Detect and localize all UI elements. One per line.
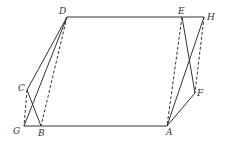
segment-ef <box>182 17 195 93</box>
segment-dg <box>24 17 67 126</box>
label-h: H <box>206 12 215 22</box>
segment-ea-dashed <box>167 17 182 126</box>
segment-dc <box>27 17 67 90</box>
segment-db-dashed <box>41 17 67 126</box>
segment-ha <box>167 17 204 126</box>
label-d: D <box>58 6 66 16</box>
label-g: G <box>13 126 20 136</box>
label-c: C <box>18 83 25 93</box>
label-a: A <box>165 127 173 137</box>
label-f: F <box>196 88 204 98</box>
segment-cb <box>27 90 41 126</box>
segment-hf-dashed <box>195 17 204 93</box>
label-b: B <box>37 128 45 138</box>
label-e: E <box>177 6 185 16</box>
geometry-diagram: D E H C G B A F <box>0 0 227 145</box>
